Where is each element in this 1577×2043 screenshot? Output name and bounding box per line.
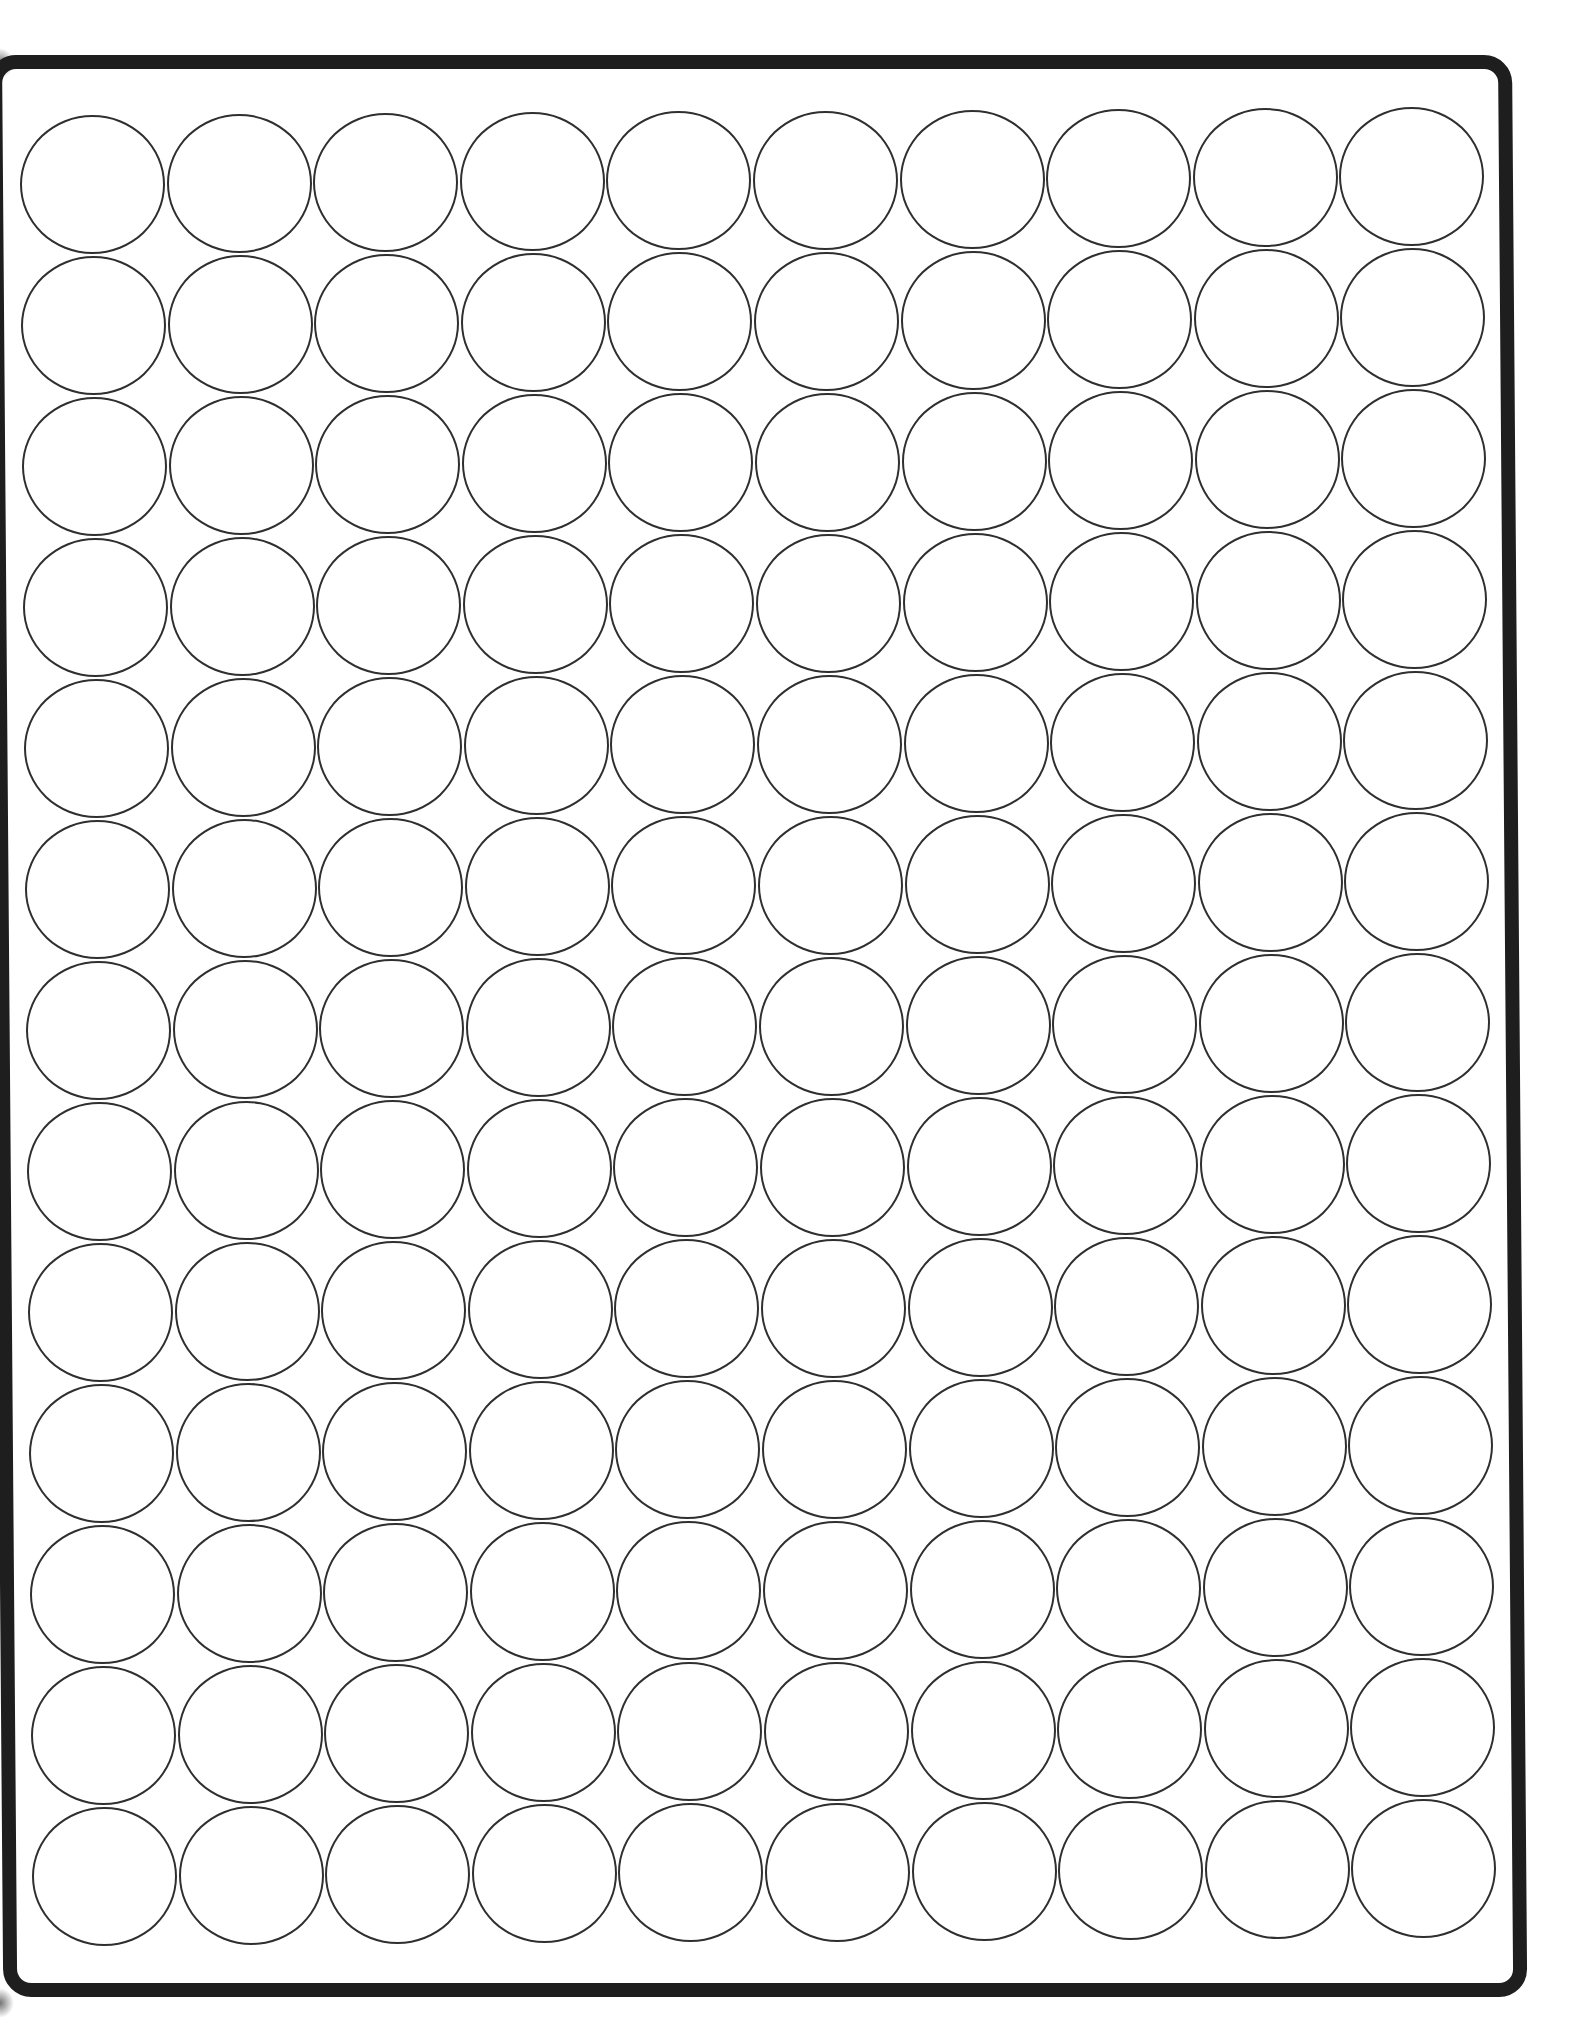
round-label bbox=[760, 1098, 905, 1237]
round-label bbox=[471, 1663, 616, 1802]
round-label bbox=[21, 256, 166, 395]
round-label bbox=[167, 114, 312, 253]
round-label bbox=[905, 815, 1050, 954]
round-label bbox=[1349, 1517, 1494, 1656]
round-label bbox=[610, 675, 755, 814]
round-label bbox=[903, 533, 1048, 672]
round-label bbox=[1055, 1378, 1200, 1517]
round-label bbox=[1052, 955, 1197, 1094]
round-label bbox=[1199, 954, 1344, 1093]
round-label bbox=[1049, 532, 1194, 671]
round-label bbox=[758, 816, 903, 955]
round-label bbox=[618, 1803, 763, 1942]
round-label bbox=[174, 1101, 319, 1240]
round-label bbox=[472, 1804, 617, 1943]
round-label bbox=[1342, 530, 1487, 669]
round-label bbox=[1340, 248, 1485, 387]
round-label bbox=[319, 959, 464, 1098]
round-label bbox=[1194, 249, 1339, 388]
round-label bbox=[911, 1661, 1056, 1800]
round-label bbox=[910, 1520, 1055, 1659]
label-sheet bbox=[0, 0, 1577, 2043]
round-label bbox=[462, 394, 607, 533]
round-label bbox=[1205, 1800, 1350, 1939]
round-label bbox=[169, 396, 314, 535]
round-label bbox=[606, 111, 751, 250]
round-label bbox=[465, 817, 610, 956]
round-label bbox=[32, 1807, 177, 1946]
round-label bbox=[468, 1240, 613, 1379]
round-label bbox=[172, 819, 317, 958]
round-label bbox=[1339, 107, 1484, 246]
round-label bbox=[1056, 1519, 1201, 1658]
round-label bbox=[315, 395, 460, 534]
round-label bbox=[30, 1525, 175, 1664]
round-label bbox=[323, 1523, 468, 1662]
round-label bbox=[1348, 1376, 1493, 1515]
round-label bbox=[1202, 1377, 1347, 1516]
round-label bbox=[29, 1384, 174, 1523]
round-label bbox=[324, 1664, 469, 1803]
round-label bbox=[1204, 1659, 1349, 1798]
round-label bbox=[757, 675, 902, 814]
round-label bbox=[613, 1098, 758, 1237]
round-label bbox=[317, 677, 462, 816]
round-label bbox=[1054, 1237, 1199, 1376]
round-label bbox=[906, 956, 1051, 1095]
round-label bbox=[612, 957, 757, 1096]
round-label bbox=[313, 113, 458, 252]
round-label bbox=[20, 115, 165, 254]
round-label bbox=[320, 1100, 465, 1239]
round-label bbox=[24, 679, 169, 818]
round-label bbox=[1347, 1235, 1492, 1374]
round-label bbox=[1193, 108, 1338, 247]
round-label bbox=[1057, 1660, 1202, 1799]
round-label bbox=[466, 958, 611, 1097]
round-label bbox=[1197, 672, 1342, 811]
round-label bbox=[900, 110, 1045, 249]
round-label bbox=[176, 1383, 321, 1522]
round-label bbox=[611, 816, 756, 955]
round-label bbox=[755, 393, 900, 532]
round-label bbox=[467, 1099, 612, 1238]
round-label bbox=[756, 534, 901, 673]
round-label bbox=[1051, 814, 1196, 953]
round-label bbox=[179, 1806, 324, 1945]
round-label bbox=[25, 820, 170, 959]
round-label bbox=[321, 1241, 466, 1380]
round-label bbox=[314, 254, 459, 393]
round-label bbox=[1058, 1801, 1203, 1940]
round-label bbox=[1050, 673, 1195, 812]
round-label bbox=[908, 1238, 1053, 1377]
label-grid bbox=[0, 0, 1577, 2043]
round-label bbox=[1350, 1658, 1495, 1797]
round-label bbox=[615, 1380, 760, 1519]
round-label bbox=[177, 1524, 322, 1663]
round-label bbox=[761, 1239, 906, 1378]
round-label bbox=[1203, 1518, 1348, 1657]
round-label bbox=[316, 536, 461, 675]
round-label bbox=[1341, 389, 1486, 528]
round-label bbox=[909, 1379, 1054, 1518]
round-label bbox=[616, 1521, 761, 1660]
round-label bbox=[31, 1666, 176, 1805]
round-label bbox=[764, 1662, 909, 1801]
round-label bbox=[1053, 1096, 1198, 1235]
round-label bbox=[28, 1243, 173, 1382]
round-label bbox=[902, 392, 1047, 531]
round-label bbox=[607, 252, 752, 391]
round-label bbox=[608, 393, 753, 532]
round-label bbox=[1200, 1095, 1345, 1234]
round-label bbox=[23, 538, 168, 677]
round-label bbox=[1198, 813, 1343, 952]
round-label bbox=[460, 112, 605, 251]
round-label bbox=[470, 1522, 615, 1661]
round-label bbox=[753, 111, 898, 250]
round-label bbox=[178, 1665, 323, 1804]
round-label bbox=[322, 1382, 467, 1521]
round-label bbox=[907, 1097, 1052, 1236]
round-label bbox=[175, 1242, 320, 1381]
round-label bbox=[1345, 953, 1490, 1092]
round-label bbox=[469, 1381, 614, 1520]
round-label bbox=[759, 957, 904, 1096]
